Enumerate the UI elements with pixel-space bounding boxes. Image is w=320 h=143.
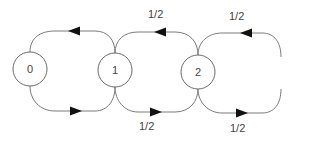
edge-right-to-2-top: [198, 33, 281, 57]
state-node-1-label: 1: [112, 65, 118, 76]
edge-0-to-1-bottom: [30, 86, 115, 111]
edge-label-bottom-2-right: 1/2: [230, 123, 245, 134]
edge-2-to-1-top: [115, 32, 198, 55]
edge-2-to-right-bottom: [198, 89, 281, 113]
edge-label-bottom-1-2: 1/2: [139, 121, 154, 132]
edge-1-to-0-top: [30, 31, 115, 53]
arrow-left-icon: [68, 27, 80, 36]
edge-label-top-2-right: 1/2: [229, 11, 244, 22]
state-node-2-label: 2: [195, 67, 201, 78]
arrow-left-icon: [154, 28, 166, 37]
arrow-right-icon: [236, 109, 248, 118]
arrow-left-icon: [240, 29, 252, 38]
state-node-0-label: 0: [27, 64, 33, 75]
arrow-right-icon: [150, 108, 162, 117]
edge-1-to-2-bottom: [115, 87, 198, 112]
edge-label-top-1-2: 1/2: [148, 9, 163, 20]
arrow-right-icon: [70, 107, 82, 116]
